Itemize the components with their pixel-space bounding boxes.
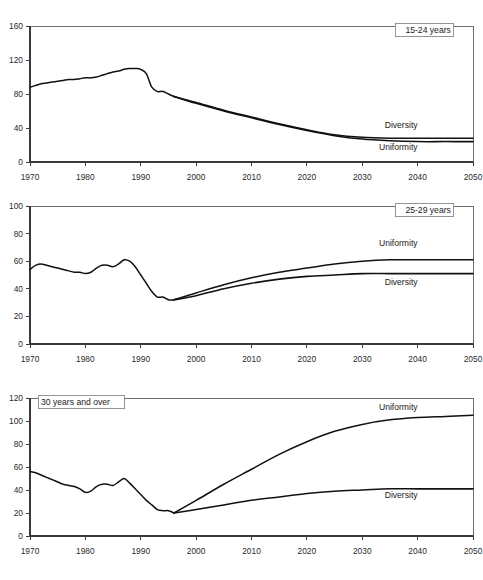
panel-label: 15-24 years xyxy=(405,25,450,35)
y-tick-label: 0 xyxy=(18,339,23,349)
y-tick-label: 120 xyxy=(9,393,23,403)
x-tick-label: 1970 xyxy=(21,172,40,182)
x-tick-label: 2040 xyxy=(408,172,427,182)
x-tick-label: 2020 xyxy=(298,546,317,556)
x-tick-label: 1980 xyxy=(76,172,95,182)
series-line-historical xyxy=(30,472,174,513)
y-axis: 04080120160 xyxy=(9,21,30,167)
y-tick-label: 0 xyxy=(18,157,23,167)
chart-svg-1: 0204060801001970198019902000201020202030… xyxy=(0,196,483,374)
plot-frame xyxy=(30,206,473,344)
panel-label: 25-29 years xyxy=(405,205,450,215)
x-tick-label: 2000 xyxy=(187,172,206,182)
x-tick-label: 2030 xyxy=(353,546,372,556)
y-tick-label: 40 xyxy=(14,485,24,495)
y-tick-label: 120 xyxy=(9,55,23,65)
y-axis: 020406080100120 xyxy=(9,393,30,541)
annotations: 15-24 yearsDiversityUniformity xyxy=(379,24,454,152)
chart-svg-2: 0204060801001201970198019902000201020202… xyxy=(0,384,483,580)
x-axis: 197019801990200020102020203020402050 xyxy=(21,162,483,182)
y-tick-label: 60 xyxy=(14,462,24,472)
series-label-uniformity: Uniformity xyxy=(379,402,418,412)
x-tick-label: 1970 xyxy=(21,546,40,556)
series-label-uniformity: Uniformity xyxy=(379,142,418,152)
x-tick-label: 2050 xyxy=(464,172,483,182)
y-tick-label: 20 xyxy=(14,311,24,321)
chart-panel-25-29-years: 0204060801001970198019902000201020202030… xyxy=(0,196,483,374)
figure-three-panel-line-charts: 0408012016019701980199020002010202020302… xyxy=(0,0,483,580)
y-tick-label: 80 xyxy=(14,229,24,239)
series-line-diversity xyxy=(174,97,473,139)
chart-panel-15-24-years: 0408012016019701980199020002010202020302… xyxy=(0,14,483,194)
series-group xyxy=(30,68,473,141)
x-tick-label: 2020 xyxy=(298,172,317,182)
annotations: 30 years and overUniformityDiversity xyxy=(38,396,418,500)
x-tick-label: 2000 xyxy=(187,354,206,364)
series-line-historical xyxy=(30,68,174,96)
y-tick-label: 40 xyxy=(14,123,24,133)
y-tick-label: 0 xyxy=(18,531,23,541)
x-tick-label: 1970 xyxy=(21,354,40,364)
x-tick-label: 2040 xyxy=(408,546,427,556)
x-tick-label: 2010 xyxy=(242,354,261,364)
x-tick-label: 2050 xyxy=(464,546,483,556)
x-tick-label: 1990 xyxy=(131,546,150,556)
y-tick-label: 80 xyxy=(14,439,24,449)
x-tick-label: 2010 xyxy=(242,546,261,556)
y-tick-label: 20 xyxy=(14,508,24,518)
x-tick-label: 2030 xyxy=(353,172,372,182)
x-tick-label: 2030 xyxy=(353,354,372,364)
x-tick-label: 2040 xyxy=(408,354,427,364)
series-line-uniformity xyxy=(174,260,473,300)
series-line-historical xyxy=(30,260,174,300)
series-line-diversity xyxy=(174,489,473,513)
x-tick-label: 1980 xyxy=(76,546,95,556)
x-axis: 197019801990200020102020203020402050 xyxy=(21,344,483,364)
y-tick-label: 100 xyxy=(9,201,23,211)
series-label-diversity: Diversity xyxy=(385,277,419,287)
x-tick-label: 1990 xyxy=(131,354,150,364)
x-tick-label: 1980 xyxy=(76,354,95,364)
y-tick-label: 60 xyxy=(14,256,24,266)
x-tick-label: 2010 xyxy=(242,172,261,182)
series-line-uniformity xyxy=(174,97,473,142)
y-tick-label: 80 xyxy=(14,89,24,99)
x-tick-label: 1990 xyxy=(131,172,150,182)
x-tick-label: 2050 xyxy=(464,354,483,364)
y-tick-label: 100 xyxy=(9,416,23,426)
series-label-diversity: Diversity xyxy=(385,120,419,130)
y-tick-label: 40 xyxy=(14,284,24,294)
series-label-uniformity: Uniformity xyxy=(379,238,418,248)
chart-svg-0: 0408012016019701980199020002010202020302… xyxy=(0,14,483,194)
y-tick-label: 160 xyxy=(9,21,23,31)
y-axis: 020406080100 xyxy=(9,201,30,349)
series-line-uniformity xyxy=(174,415,473,513)
x-tick-label: 2020 xyxy=(298,354,317,364)
x-axis: 197019801990200020102020203020402050 xyxy=(21,536,483,556)
series-label-diversity: Diversity xyxy=(385,490,419,500)
panel-label: 30 years and over xyxy=(41,397,110,407)
chart-panel-30-years-and-over: 0204060801001201970198019902000201020202… xyxy=(0,384,483,580)
x-tick-label: 2000 xyxy=(187,546,206,556)
